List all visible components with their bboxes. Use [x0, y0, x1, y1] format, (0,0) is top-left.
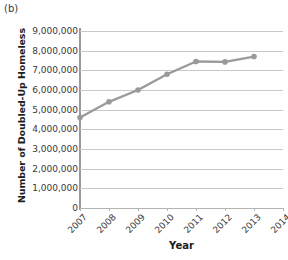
data-point-marker: [251, 54, 257, 60]
x-tick-mark: [196, 208, 197, 211]
x-tick-label: 2007: [62, 212, 89, 239]
x-tick-mark: [167, 208, 168, 211]
x-tick-mark: [283, 208, 284, 211]
x-tick-label: 2010: [149, 212, 176, 239]
data-point-marker: [222, 59, 228, 65]
x-tick-mark: [138, 208, 139, 211]
y-tick-label: 7,000,000: [26, 65, 78, 75]
data-point-marker: [193, 59, 199, 65]
y-tick-label: 1,000,000: [26, 183, 78, 193]
x-tick-label: 2014: [265, 212, 288, 239]
y-tick-label: 9,000,000: [26, 26, 78, 36]
data-point-marker: [164, 71, 170, 77]
y-tick-label: 2,000,000: [26, 164, 78, 174]
y-tick-label: 5,000,000: [26, 105, 78, 115]
y-tick-label: 8,000,000: [26, 46, 78, 56]
panel-label: (b): [4, 3, 18, 15]
y-tick-label: 4,000,000: [26, 124, 78, 134]
x-tick-label: 2008: [91, 212, 118, 239]
x-axis-title: Year: [80, 240, 283, 251]
x-tick-mark: [225, 208, 226, 211]
y-axis-tick-labels: 01,000,0002,000,0003,000,0004,000,0005,0…: [26, 24, 78, 214]
x-tick-mark: [80, 208, 81, 211]
x-tick-mark: [254, 208, 255, 211]
x-tick-label: 2012: [207, 212, 234, 239]
x-tick-label: 2009: [120, 212, 147, 239]
plot-area: [80, 31, 283, 208]
y-tick-label: 0: [26, 203, 78, 213]
y-tick-label: 3,000,000: [26, 144, 78, 154]
x-axis-tick-labels: 20072008200920102011201220132014: [80, 208, 288, 242]
line-series: [80, 31, 283, 208]
x-tick-label: 2011: [178, 212, 205, 239]
x-tick-label: 2013: [236, 212, 263, 239]
figure-panel-b: (b) Number of Doubled-Up Homeless 01,000…: [0, 0, 288, 260]
series-line: [80, 57, 254, 118]
y-tick-label: 6,000,000: [26, 85, 78, 95]
data-point-marker: [77, 115, 83, 121]
data-point-marker: [106, 99, 112, 105]
data-point-marker: [135, 87, 141, 93]
x-tick-mark: [109, 208, 110, 211]
